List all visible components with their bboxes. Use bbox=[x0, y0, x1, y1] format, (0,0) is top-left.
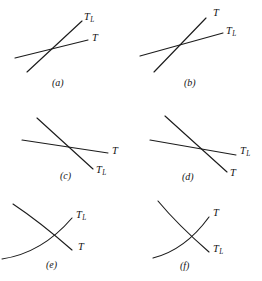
panel-a-caption: (a) bbox=[52, 78, 64, 88]
panel-e-drawing bbox=[0, 188, 131, 281]
panel-e-rising-curve bbox=[2, 218, 72, 259]
panel-c-caption: (c) bbox=[60, 171, 71, 181]
curve-label-t: T bbox=[92, 33, 98, 44]
panel-b-drawing bbox=[131, 0, 262, 94]
curve-label-tl-subscript: L bbox=[219, 248, 223, 256]
curve-label-tl-base: T bbox=[213, 243, 219, 254]
curve-label-tl: TL bbox=[76, 210, 86, 221]
curve-label-tl-base: T bbox=[240, 145, 246, 156]
curve-label-tl-base: T bbox=[84, 11, 90, 22]
panel-e: TLT bbox=[0, 188, 131, 281]
curve-label-tl-subscript: L bbox=[246, 150, 250, 158]
curve-label-tl: TL bbox=[96, 165, 106, 176]
curve-label-t: T bbox=[230, 168, 236, 179]
curve-label-t: T bbox=[112, 146, 118, 157]
panel-c-shallow-falling-line bbox=[22, 140, 108, 153]
panel-f-rising-curve bbox=[153, 217, 209, 258]
panel-f: TTL bbox=[131, 188, 262, 281]
curve-label-tl: TL bbox=[213, 244, 223, 255]
panel-a-drawing bbox=[0, 0, 131, 94]
panel-b: TTL bbox=[131, 0, 262, 94]
curve-label-tl-base: T bbox=[96, 164, 102, 175]
curve-label-tl: TL bbox=[226, 26, 236, 37]
panel-a-steep-rising-line bbox=[27, 21, 82, 72]
curve-label-tl: TL bbox=[84, 12, 94, 23]
curve-label-t: T bbox=[78, 242, 84, 253]
curve-label-tl-subscript: L bbox=[232, 30, 236, 38]
panel-a-shallow-rising-line bbox=[15, 40, 88, 58]
panel-d-caption: (d) bbox=[182, 172, 194, 182]
curve-label-tl: TL bbox=[240, 146, 250, 157]
panel-d: TTL bbox=[131, 94, 262, 188]
panel-b-shallow-rising-line bbox=[140, 33, 223, 56]
panel-f-caption: (f) bbox=[180, 261, 189, 271]
figure-six-panel-crossing-curves: TLTTTLTLTTTLTLTTTL(a)(b)(c)(d)(e)(f) bbox=[0, 0, 262, 281]
curve-label-t: T bbox=[213, 8, 219, 19]
panel-e-caption: (e) bbox=[46, 260, 57, 270]
curve-label-tl-base: T bbox=[226, 25, 232, 36]
curve-label-tl-subscript: L bbox=[90, 16, 94, 24]
curve-label-t: T bbox=[213, 208, 219, 219]
panel-a: TLT bbox=[0, 0, 131, 94]
panel-d-drawing bbox=[131, 94, 262, 188]
panel-f-drawing bbox=[131, 188, 262, 281]
curve-label-tl-subscript: L bbox=[82, 214, 86, 222]
curve-label-tl-subscript: L bbox=[102, 169, 106, 177]
panel-d-shallow-falling-line bbox=[150, 140, 236, 155]
curve-label-tl-base: T bbox=[76, 209, 82, 220]
panel-b-caption: (b) bbox=[184, 78, 196, 88]
